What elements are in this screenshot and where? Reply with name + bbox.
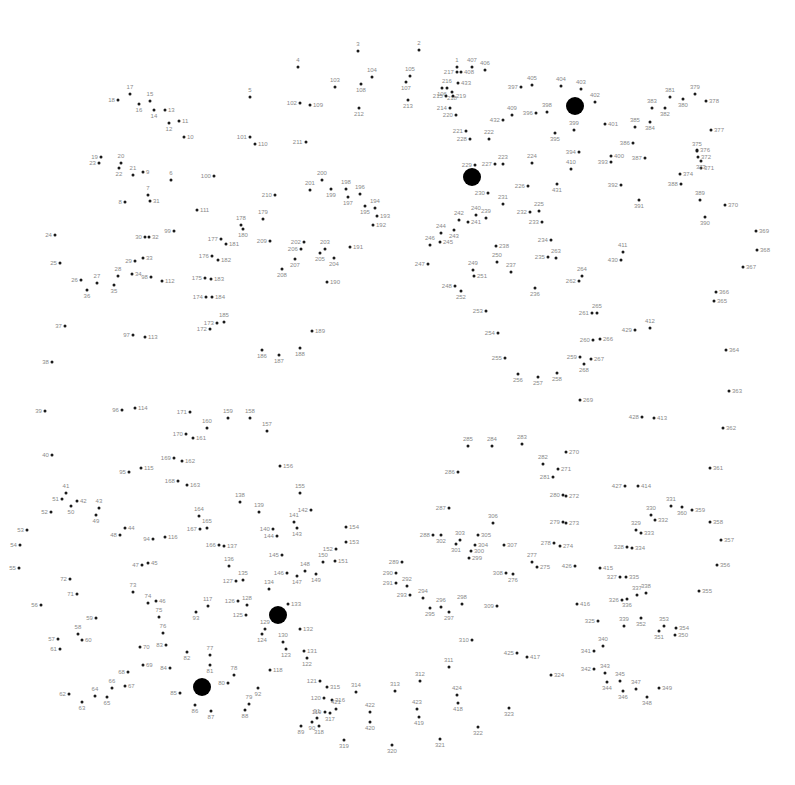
dot-point[interactable] [467,221,470,224]
dot-point[interactable] [407,99,410,102]
dot-point[interactable] [448,611,451,614]
dot-point[interactable] [461,603,464,606]
dot-point[interactable] [722,427,725,430]
dot-point[interactable] [724,204,727,207]
dot-point[interactable] [419,680,422,683]
dot-point[interactable] [345,541,348,544]
dot-point[interactable] [51,454,54,457]
dot-point[interactable] [335,548,338,551]
dot-point[interactable] [429,244,432,247]
dot-point[interactable] [19,544,22,547]
dot-point[interactable] [18,567,21,570]
dot-point[interactable] [531,561,534,564]
dot-point[interactable] [697,156,700,159]
dot-point[interactable] [409,75,412,78]
dot-point[interactable] [161,280,164,283]
dot-point[interactable] [635,529,638,532]
dot-point[interactable] [117,99,120,102]
dot-point[interactable] [623,625,626,628]
dot-point[interactable] [319,680,322,683]
dot-point[interactable] [205,296,208,299]
dot-point[interactable] [406,585,409,588]
dot-point[interactable] [472,269,475,272]
dot-point[interactable] [488,138,491,141]
dot-point[interactable] [240,224,243,227]
dot-point[interactable] [691,509,694,512]
dot-point[interactable] [118,167,121,170]
dot-point[interactable] [653,417,656,420]
dot-point[interactable] [620,259,623,262]
dot-point[interactable] [141,564,144,567]
dot-point[interactable] [496,605,499,608]
dot-point[interactable] [457,471,460,474]
dot-point[interactable] [185,433,188,436]
dot-point[interactable] [311,721,314,724]
dot-point[interactable] [471,639,474,642]
dot-point[interactable] [592,339,595,342]
dot-point[interactable] [418,49,421,52]
dot-point[interactable] [636,594,639,597]
dot-point[interactable] [698,590,701,593]
dot-point[interactable] [249,136,252,139]
dot-point[interactable] [132,174,135,177]
dot-point[interactable] [416,708,419,711]
dot-point[interactable] [610,161,613,164]
dot-point[interactable] [246,604,249,607]
dot-point[interactable] [57,638,60,641]
dot-point[interactable] [504,357,507,360]
dot-point[interactable] [326,686,329,689]
dot-point[interactable] [81,701,84,704]
dot-point[interactable] [599,567,602,570]
dot-point[interactable] [709,521,712,524]
dot-point[interactable] [257,687,260,690]
dot-point[interactable] [152,538,155,541]
dot-point[interactable] [631,547,634,550]
dot-point[interactable] [546,111,549,114]
dot-point[interactable] [147,562,150,565]
dot-point[interactable] [664,107,667,110]
dot-point[interactable] [26,529,29,532]
dot-point[interactable] [177,480,180,483]
dot-point[interactable] [96,282,99,285]
dot-point[interactable] [439,241,442,244]
dot-point[interactable] [77,633,80,636]
dot-point[interactable] [318,725,321,728]
dot-point[interactable] [502,163,505,166]
dot-point[interactable] [316,717,319,720]
dot-point[interactable] [261,349,264,352]
dot-point[interactable] [495,245,498,248]
dot-point[interactable] [422,597,425,600]
dot-point[interactable] [269,240,272,243]
dot-point[interactable] [249,417,252,420]
dot-point[interactable] [51,361,54,364]
dot-point[interactable] [494,163,497,166]
dot-point[interactable] [94,695,97,698]
dot-point[interactable] [210,278,213,281]
dot-point[interactable] [502,203,505,206]
dot-point[interactable] [186,484,189,487]
dot-point[interactable] [580,88,583,91]
dot-point[interactable] [294,258,297,261]
dot-point[interactable] [634,329,637,332]
dot-point[interactable] [296,575,299,578]
dot-point[interactable] [324,248,327,251]
dot-point[interactable] [596,312,599,315]
dot-point[interactable] [286,572,289,575]
dot-point[interactable] [164,109,167,112]
dot-point[interactable] [164,536,167,539]
dot-point[interactable] [359,193,362,196]
dot-point[interactable] [281,554,284,557]
dot-point[interactable] [573,129,576,132]
dot-point[interactable] [694,93,697,96]
dot-point[interactable] [162,632,165,635]
dot-point[interactable] [581,275,584,278]
dot-point[interactable] [262,218,265,221]
dot-point[interactable] [192,437,195,440]
dot-point[interactable] [124,201,127,204]
dot-point[interactable] [297,66,300,69]
dot-point[interactable] [98,507,101,510]
dot-point[interactable] [756,249,759,252]
dot-point[interactable] [521,443,524,446]
dot-point[interactable] [148,236,151,239]
dot-point[interactable] [626,546,629,549]
